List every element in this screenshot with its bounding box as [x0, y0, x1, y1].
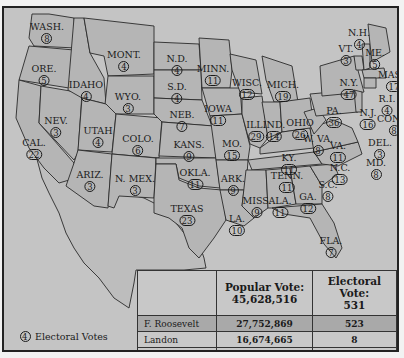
state-label: CONN.8: [377, 114, 399, 136]
state-label: WISC.12: [232, 78, 262, 100]
electoral-votes-badge: 4: [81, 91, 92, 102]
state-abbr: ARIZ.: [76, 170, 103, 180]
state-abbr: IOWA: [204, 104, 232, 114]
electoral-votes-badge: 3: [84, 181, 95, 192]
popular-vote-total: 45,628,516: [223, 293, 305, 305]
state-label: FLA.7: [320, 236, 343, 258]
state-label: N. MEX.3: [115, 174, 155, 196]
electoral-votes-badge: 3: [129, 185, 140, 196]
table-row: Others 1,200,982: [138, 348, 397, 353]
state-connecticut: [364, 78, 376, 88]
state-label: N.C.13: [330, 163, 351, 185]
state-label: NEB.7: [169, 110, 194, 132]
state-label: ALA.11: [268, 196, 291, 218]
electoral-vote-header: Electoral Vote: 531: [312, 271, 396, 316]
state-abbr: UTAH: [84, 126, 113, 136]
popular-vote-header: Popular Vote: 45,628,516: [217, 271, 312, 316]
electoral-votes-badge: 11: [279, 182, 295, 193]
state-abbr: WASH.: [30, 22, 64, 32]
electoral-votes-badge: 10: [229, 225, 245, 236]
electoral-votes-badge: 9: [183, 151, 194, 162]
electoral-votes-badge: 17: [386, 81, 399, 92]
electoral-votes-badge: 16: [360, 119, 376, 130]
electoral-votes-badge: 8: [322, 191, 333, 202]
popular-vote: 27,752,869: [217, 316, 312, 332]
electoral-votes-badge: 6: [133, 145, 144, 156]
state-abbr: N.J.: [360, 108, 377, 118]
state-abbr: ARK.: [221, 174, 245, 184]
state-abbr: WISC.: [232, 78, 262, 88]
state-abbr: N.Y.: [340, 78, 359, 88]
electoral-votes-badge: 7: [326, 247, 337, 258]
state-label: TEXAS23: [170, 204, 203, 226]
electoral-votes-badge: 11: [187, 179, 203, 190]
candidate-name: F. Roosevelt: [138, 316, 217, 332]
electoral-votes-badge: 8: [313, 145, 324, 156]
table-row: Landon 16,674,665 8: [138, 332, 397, 348]
electoral-votes-badge: 23: [179, 215, 195, 226]
electoral-vote: [312, 348, 396, 353]
map-legend: 4Electoral Votes: [20, 330, 108, 342]
state-label: W. VA.8: [303, 134, 333, 156]
table-row: F. Roosevelt 27,752,869 523: [138, 316, 397, 332]
state-abbr: WYO.: [115, 92, 141, 102]
state-label: N.J.16: [360, 108, 377, 130]
state-label: ORE.5: [32, 64, 57, 86]
state-label: WASH.8: [30, 22, 64, 44]
electoral-votes-badge: 47: [341, 89, 357, 100]
electoral-votes-badge: 36: [326, 117, 342, 128]
state-label: UTAH4: [84, 126, 113, 148]
election-map-frame: WASH.8ORE.5CAL.22IDAHO4NEV.3MONT.4WYO.3U…: [2, 6, 399, 352]
results-header-row: Popular Vote: 45,628,516 Electoral Vote:…: [138, 271, 397, 316]
state-label: TENN.11: [271, 171, 303, 193]
electoral-votes-badge: 19: [275, 91, 291, 102]
state-label: MONT.4: [107, 50, 141, 72]
state-label: IOWA11: [204, 104, 232, 126]
state-label: ARK.9: [221, 174, 245, 196]
electoral-votes-badge: 22: [26, 149, 42, 160]
electoral-votes-badge: 4: [172, 65, 183, 76]
popular-vote-label: Popular Vote:: [223, 281, 305, 293]
electoral-votes-badge: 11: [272, 207, 288, 218]
state-abbr: CONN.: [377, 114, 399, 124]
state-abbr: KANS.: [173, 140, 204, 150]
electoral-vote-total: 531: [319, 299, 390, 311]
electoral-votes-badge: 3: [51, 127, 62, 138]
electoral-vote: 8: [312, 332, 396, 348]
state-abbr: CAL.: [22, 138, 45, 148]
state-label: MINN.11: [197, 64, 230, 86]
state-abbr: MD.: [366, 158, 386, 168]
electoral-votes-badge: 8: [42, 33, 53, 44]
state-abbr: KY.: [281, 153, 297, 163]
popular-vote: 16,674,665: [217, 332, 312, 348]
state-abbr: OKLA.: [179, 168, 210, 178]
state-abbr: NEB.: [169, 110, 194, 120]
header-blank-cell: [138, 271, 217, 316]
state-label: N.Y.47: [340, 78, 359, 100]
electoral-votes-badge: 29: [248, 131, 264, 142]
state-abbr: S.D.: [167, 82, 187, 92]
state-label: WYO.3: [115, 92, 141, 114]
electoral-votes-badge: 9: [227, 185, 238, 196]
state-label: MO.15: [222, 139, 242, 161]
state-abbr: MISS.: [242, 196, 271, 206]
state-abbr: N.D.: [166, 54, 187, 64]
state-label: KANS.9: [173, 140, 204, 162]
electoral-votes-badge: 3: [122, 103, 133, 114]
state-abbr: TEXAS: [170, 204, 203, 214]
state-abbr: DEL.: [368, 138, 392, 148]
state-abbr: FLA.: [320, 236, 343, 246]
state-label: MISS.9: [242, 196, 271, 218]
electoral-votes-badge: 4: [118, 61, 129, 72]
state-abbr: MASS.: [378, 70, 399, 80]
state-abbr: N.H.: [348, 28, 370, 38]
electoral-votes-badge: 9: [251, 207, 262, 218]
candidate-name: Landon: [138, 332, 217, 348]
state-label: IDAHO4: [69, 80, 103, 102]
state-label: S.D.4: [167, 82, 187, 104]
state-label: NEV.3: [44, 116, 67, 138]
electoral-votes-badge: 12: [300, 203, 316, 214]
state-label: ME.5: [365, 48, 385, 70]
state-vermont: [354, 56, 364, 70]
state-abbr: MINN.: [197, 64, 230, 74]
